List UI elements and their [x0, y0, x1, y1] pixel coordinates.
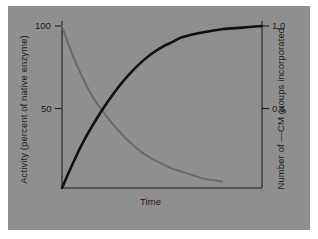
x-axis-title: Time [140, 196, 161, 207]
curve-activity-decay [62, 26, 222, 182]
y-axis-left-tick-label-100: 100 [35, 20, 51, 31]
tick-marks [55, 26, 269, 109]
y-axis-left-title: Activity (percent of native enzyme) [18, 30, 29, 190]
y-axis-left-tick-label-50: 50 [41, 103, 52, 114]
data-curves [62, 26, 262, 188]
y-axis-right-title: Number of —CM groups incorporated [275, 30, 286, 190]
figure-container: 100 50 1.0 0.5 Activity (percent of nati… [0, 0, 318, 239]
